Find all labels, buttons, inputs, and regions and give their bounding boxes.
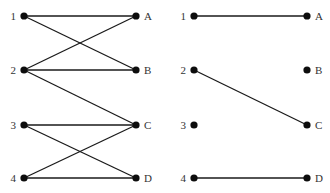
node-label-2: 2 bbox=[11, 64, 17, 76]
node-2 bbox=[190, 66, 197, 73]
node-D bbox=[303, 174, 310, 181]
node-label-3: 3 bbox=[181, 119, 187, 131]
edge-2-C bbox=[194, 70, 307, 125]
node-1 bbox=[20, 12, 27, 19]
node-2 bbox=[20, 66, 27, 73]
node-label-4: 4 bbox=[11, 172, 17, 184]
node-A bbox=[303, 12, 310, 19]
node-label-C: C bbox=[144, 119, 151, 131]
node-B bbox=[132, 66, 139, 73]
node-label-4: 4 bbox=[181, 172, 187, 184]
node-label-A: A bbox=[144, 10, 152, 22]
node-1 bbox=[190, 12, 197, 19]
node-4 bbox=[190, 174, 197, 181]
node-label-1: 1 bbox=[11, 10, 17, 22]
node-label-2: 2 bbox=[181, 64, 187, 76]
left-bipartite-graph: 1234ABCD bbox=[11, 10, 153, 184]
node-B bbox=[303, 66, 310, 73]
node-label-3: 3 bbox=[11, 119, 17, 131]
node-label-D: D bbox=[315, 172, 323, 184]
node-label-A: A bbox=[315, 10, 323, 22]
right-matching-graph: 1234ABCD bbox=[181, 10, 324, 184]
node-D bbox=[132, 174, 139, 181]
node-label-B: B bbox=[144, 64, 151, 76]
node-C bbox=[132, 121, 139, 128]
node-label-D: D bbox=[144, 172, 152, 184]
node-4 bbox=[20, 174, 27, 181]
node-3 bbox=[190, 121, 197, 128]
node-label-1: 1 bbox=[181, 10, 187, 22]
node-label-B: B bbox=[315, 64, 322, 76]
node-label-C: C bbox=[315, 119, 322, 131]
node-3 bbox=[20, 121, 27, 128]
bipartite-diagram: 1234ABCD1234ABCD bbox=[0, 0, 330, 193]
node-C bbox=[303, 121, 310, 128]
node-A bbox=[132, 12, 139, 19]
edge-2-C bbox=[24, 70, 136, 125]
